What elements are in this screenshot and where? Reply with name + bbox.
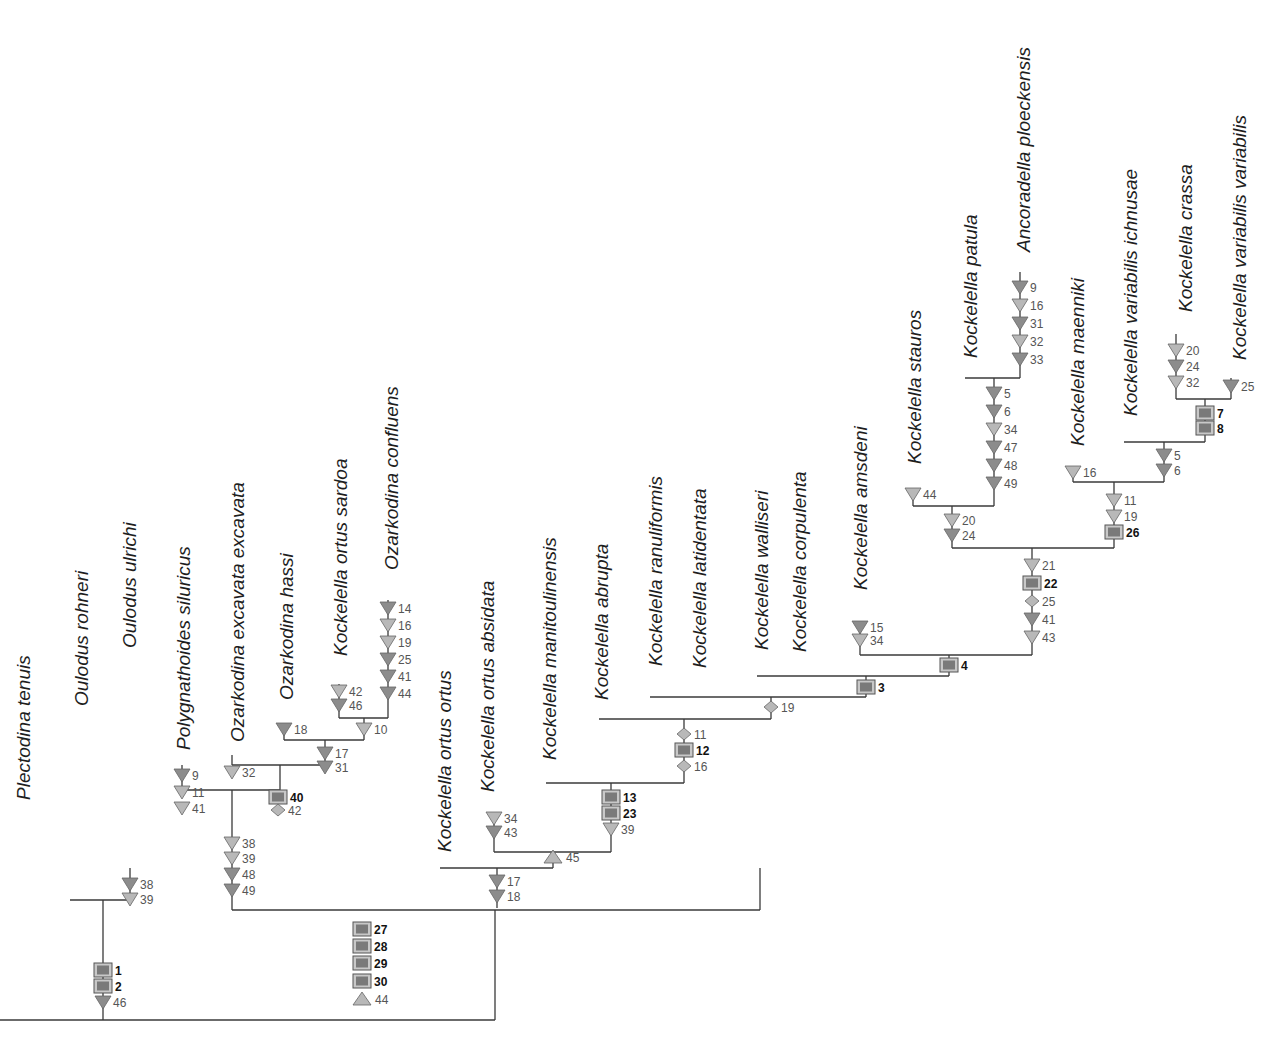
character-diamond: 16	[677, 760, 708, 774]
character-tri-dark: 25	[380, 653, 412, 667]
triangle-down-icon	[317, 761, 333, 774]
character-number: 10	[374, 723, 388, 737]
character-tri-light: 21	[1024, 559, 1056, 573]
triangle-down-icon	[1168, 360, 1184, 373]
triangle-down-icon	[95, 996, 111, 1009]
character-tri-light: 20	[1168, 344, 1200, 358]
character-number: 34	[870, 634, 884, 648]
box-icon	[857, 680, 875, 694]
character-box: 29	[353, 956, 388, 971]
character-number: 32	[1030, 335, 1044, 349]
character-box: 26	[1105, 525, 1140, 540]
character-number: 19	[398, 636, 412, 650]
character-number: 15	[870, 621, 884, 635]
character-number: 44	[375, 993, 389, 1007]
character-tri-light: 34	[986, 423, 1018, 437]
diamond-icon	[271, 804, 285, 816]
box-icon	[675, 743, 693, 757]
character-number: 48	[242, 868, 256, 882]
character-number: 9	[1030, 281, 1037, 295]
character-number: 48	[1004, 459, 1018, 473]
box-icon	[94, 963, 112, 977]
character-number: 29	[374, 957, 388, 971]
character-tri-light: 16	[1012, 299, 1044, 313]
character-tri-dark: 14	[380, 602, 412, 616]
character-number: 5	[1174, 449, 1181, 463]
character-tri-dark: 33	[1012, 353, 1044, 367]
diamond-icon	[677, 728, 691, 740]
character-tri-dark: 17	[489, 875, 521, 889]
diamond-icon	[677, 760, 691, 772]
triangle-down-icon	[331, 685, 347, 698]
taxon-label: Kockelella amsdeni	[850, 426, 871, 590]
character-number: 11	[192, 786, 205, 800]
character-number: 14	[398, 602, 412, 616]
character-number: 39	[242, 852, 256, 866]
cladogram: Plectodina tenuisOulodus rohneriOulodus …	[0, 0, 1272, 1040]
taxon-label: Ancoradella ploeckensis	[1013, 47, 1034, 253]
character-tri-dark: 49	[986, 477, 1018, 491]
character-tri-light: 39	[603, 823, 635, 837]
taxon-label: Polygnathoides siluricus	[173, 546, 194, 750]
character-box: 23	[602, 806, 637, 821]
triangle-down-icon	[1012, 281, 1028, 294]
character-tri-dark: 18	[489, 890, 521, 904]
character-number: 38	[140, 878, 154, 892]
character-tri-dark: 46	[331, 699, 363, 713]
triangle-down-icon	[489, 875, 505, 888]
character-number: 16	[1083, 466, 1097, 480]
character-number: 27	[374, 923, 388, 937]
triangle-down-icon	[380, 653, 396, 666]
taxon-label: Ozarkodina confluens	[381, 386, 402, 570]
character-box: 22	[1023, 576, 1058, 591]
taxon-label: Oulodus rohneri	[71, 570, 92, 706]
character-tri-light: 42	[331, 685, 363, 699]
diamond-icon	[1025, 595, 1039, 607]
character-number: 4	[961, 659, 968, 673]
character-number: 25	[1042, 595, 1056, 609]
character-tri-dark: 43	[486, 826, 518, 840]
character-tri-dark: 48	[224, 868, 256, 882]
triangle-down-icon	[1168, 376, 1184, 389]
triangle-down-icon	[986, 405, 1002, 418]
character-number: 20	[962, 514, 976, 528]
character-number: 32	[242, 766, 256, 780]
triangle-down-icon	[174, 802, 190, 815]
triangle-down-icon	[276, 723, 292, 736]
branch-line	[70, 868, 130, 900]
triangle-down-icon	[1012, 299, 1028, 312]
character-tri-dark: 9	[174, 769, 199, 783]
character-tri-dark: 24	[1168, 360, 1200, 374]
box-icon	[353, 922, 371, 936]
character-number: 22	[1044, 577, 1058, 591]
character-number: 33	[1030, 353, 1044, 367]
character-box: 27	[353, 922, 388, 937]
taxon-label: Plectodina tenuis	[13, 655, 34, 800]
taxon-label: Kockelella ranuliformis	[645, 475, 666, 666]
triangle-down-icon	[986, 387, 1002, 400]
character-number: 11	[1124, 494, 1137, 508]
triangle-down-icon	[1012, 335, 1028, 348]
triangle-down-icon	[1024, 631, 1040, 644]
character-number: 16	[398, 619, 412, 633]
character-tri-dark: 6	[1156, 464, 1181, 478]
triangle-down-icon	[356, 723, 372, 736]
character-box: 13	[602, 790, 637, 805]
triangle-down-icon	[224, 766, 240, 779]
taxon-label: Kockelella ortus absidata	[477, 581, 498, 792]
character-number: 39	[621, 823, 635, 837]
character-diamond: 11	[677, 728, 707, 742]
box-icon	[94, 979, 112, 993]
character-tri-light: 10	[356, 723, 388, 737]
character-diamond: 42	[271, 804, 302, 818]
triangle-down-icon	[380, 670, 396, 683]
character-box: 2	[94, 979, 122, 994]
character-tri-light: 11	[1106, 494, 1137, 508]
taxon-label: Kockelella latidentata	[689, 488, 710, 668]
character-number: 44	[398, 687, 412, 701]
box-icon	[269, 790, 287, 804]
character-tri-light: 32	[1168, 376, 1200, 390]
character-tri-dark: 38	[122, 878, 154, 892]
character-number: 25	[398, 653, 412, 667]
triangle-down-icon	[1065, 466, 1081, 479]
